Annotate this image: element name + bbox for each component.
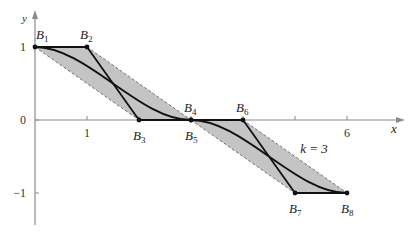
- control-point-b8: [345, 191, 350, 196]
- point-label-b1: B1: [36, 27, 48, 44]
- y-tick-label: 0: [20, 113, 26, 127]
- x-tick-label: 1: [84, 126, 90, 140]
- point-label-b4: B4: [184, 100, 197, 117]
- control-point-b6: [241, 118, 246, 123]
- point-label-b5: B5: [185, 128, 198, 145]
- bezier-diagram: x y 16 10−1 B1B2B3B4B5B6B7B8 k = 3: [0, 0, 411, 236]
- x-axis-arrow: [396, 117, 405, 123]
- x-tick-label: 6: [344, 126, 350, 140]
- point-label-b3: B3: [133, 128, 146, 145]
- y-tick-label: −1: [13, 186, 26, 200]
- point-label-b2: B2: [80, 27, 92, 44]
- order-annotation: k = 3: [300, 141, 328, 156]
- y-tick-label: 1: [20, 40, 26, 54]
- control-point-b3: [137, 118, 142, 123]
- y-axis-label: y: [21, 12, 27, 24]
- point-label-b7: B7: [289, 201, 302, 218]
- point-label-b6: B6: [236, 100, 249, 117]
- control-point-b5: [189, 118, 194, 123]
- control-point-b7: [293, 191, 298, 196]
- control-point-b1: [33, 45, 38, 50]
- point-label-b8: B8: [341, 201, 354, 218]
- x-axis-label: x: [390, 121, 397, 136]
- control-point-b2: [85, 45, 90, 50]
- y-axis-arrow: [32, 10, 38, 19]
